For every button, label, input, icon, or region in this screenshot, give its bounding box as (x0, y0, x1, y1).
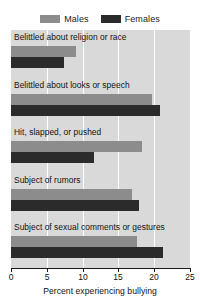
legend-label-males: Males (64, 15, 89, 24)
x-axis-title: Percent experiencing bullying (0, 286, 200, 296)
bar-males (11, 94, 152, 105)
bar-group: Belittled about religion or race (11, 30, 190, 78)
category-label: Belittled about looks or speech (14, 80, 130, 90)
category-label: Subject of sexual comments or gestures (14, 222, 165, 232)
bar-group: Subject of sexual comments or gestures (11, 220, 190, 268)
bar-females (11, 152, 94, 163)
bar-females (11, 247, 163, 258)
bar-females (11, 57, 64, 68)
category-label: Belittled about religion or race (14, 32, 126, 42)
legend-swatch-males-icon (40, 15, 60, 23)
gridline-25 (190, 30, 191, 268)
bar-males (11, 189, 132, 200)
bar-males (11, 141, 142, 152)
bar-group: Hit, slapped, or pushed (11, 125, 190, 173)
chart-legend: Males Females (0, 12, 200, 26)
bar-group: Subject of rumors (11, 173, 190, 221)
x-axis-tick-label: 0 (9, 273, 14, 282)
x-axis-tick-label: 5 (45, 273, 50, 282)
x-axis-tick-label: 10 (78, 273, 87, 282)
bar-group: Belittled about looks or speech (11, 78, 190, 126)
legend-label-females: Females (125, 15, 160, 24)
x-axis-tick-label: 15 (113, 273, 122, 282)
bar-females (11, 200, 139, 211)
bar-males (11, 46, 76, 57)
plot-area: Belittled about religion or raceBelittle… (11, 30, 190, 268)
x-axis-tick-label: 20 (149, 273, 158, 282)
category-label: Hit, slapped, or pushed (14, 127, 101, 137)
bar-females (11, 105, 160, 116)
legend-entry-females: Females (101, 15, 160, 24)
bar-males (11, 236, 137, 247)
legend-swatch-females-icon (101, 15, 121, 23)
legend-entry-males: Males (40, 15, 89, 24)
x-axis-line (11, 268, 190, 269)
x-axis-tick-label: 25 (185, 273, 194, 282)
bullying-bar-chart: Males Females Belittled about religion o… (0, 0, 200, 298)
category-label: Subject of rumors (14, 175, 80, 185)
